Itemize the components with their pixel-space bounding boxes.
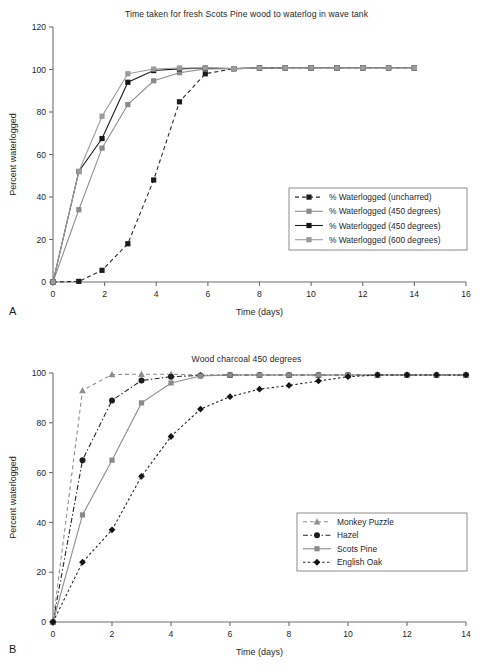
square-marker (257, 372, 262, 377)
y-tick-label: 0 (41, 277, 46, 287)
x-tick-label: 8 (257, 289, 262, 299)
square-marker (125, 71, 130, 76)
x-tick-label: 8 (287, 629, 292, 639)
y-axis-label: Percent waterlogged (8, 113, 18, 196)
x-tick-label: 12 (402, 629, 412, 639)
circle-marker (168, 374, 174, 380)
square-marker (109, 458, 114, 463)
x-axis-label: Time (days) (236, 647, 283, 657)
square-marker (203, 65, 208, 70)
y-tick-label: 100 (32, 65, 47, 75)
x-tick-label: 6 (228, 629, 233, 639)
legend-label-3: English Oak (337, 557, 383, 567)
square-marker (151, 66, 156, 71)
square-marker (386, 65, 391, 70)
square-marker (314, 546, 319, 551)
square-marker (227, 372, 232, 377)
x-tick-label: 0 (51, 629, 56, 639)
diamond-marker (197, 406, 204, 413)
square-marker (257, 65, 262, 70)
square-marker (286, 372, 291, 377)
square-marker (99, 268, 104, 273)
square-marker (334, 65, 339, 70)
circle-marker (109, 397, 115, 403)
square-marker (306, 209, 311, 214)
legend-label-0: % Waterlogged (uncharred) (329, 192, 432, 202)
series-line-3 (53, 375, 466, 622)
y-tick-label: 60 (36, 468, 46, 478)
y-tick-label: 120 (32, 22, 47, 32)
y-tick-label: 80 (36, 107, 46, 117)
square-marker (99, 136, 104, 141)
legend-label-1: Hazel (337, 530, 359, 540)
square-marker (316, 372, 321, 377)
square-marker (151, 78, 156, 83)
triangle-marker (79, 387, 86, 393)
series-line-1 (53, 375, 466, 622)
diamond-marker (79, 559, 86, 566)
x-tick-label: 14 (410, 289, 420, 299)
y-tick-label: 40 (36, 192, 46, 202)
y-tick-label: 60 (36, 150, 46, 160)
series-line-2 (53, 375, 466, 622)
circle-marker (314, 532, 320, 538)
x-tick-label: 6 (205, 289, 210, 299)
square-marker (283, 65, 288, 70)
x-tick-label: 10 (343, 629, 353, 639)
x-tick-label: 2 (110, 629, 115, 639)
square-marker (177, 65, 182, 70)
diamond-marker (286, 382, 293, 389)
y-axis-label: Percent waterlogged (8, 456, 18, 539)
y-tick-label: 40 (36, 518, 46, 528)
chart-a-plot: 0246810121416020406080100120Time (days)P… (0, 0, 493, 330)
square-marker (125, 80, 130, 85)
y-tick-label: 20 (36, 567, 46, 577)
square-marker (151, 177, 156, 182)
square-marker (139, 400, 144, 405)
square-marker (99, 114, 104, 119)
square-marker (125, 241, 130, 246)
legend-label-2: Scots Pine (337, 544, 377, 554)
diamond-marker (256, 386, 263, 393)
axis-lines (53, 373, 466, 622)
square-marker (168, 380, 173, 385)
legend-label-0: Monkey Puzzle (337, 517, 394, 527)
x-tick-label: 14 (461, 629, 471, 639)
square-marker (80, 512, 85, 517)
square-marker (203, 71, 208, 76)
y-tick-label: 0 (41, 617, 46, 627)
square-marker (360, 65, 365, 70)
y-tick-label: 100 (32, 368, 47, 378)
legend-label-2: % Waterlogged (450 degrees) (329, 221, 441, 231)
square-marker (198, 373, 203, 378)
square-marker (99, 146, 104, 151)
circle-marker (139, 377, 145, 383)
x-tick-label: 10 (306, 289, 316, 299)
y-tick-label: 20 (36, 235, 46, 245)
square-marker (76, 207, 81, 212)
square-marker (306, 237, 311, 242)
legend-label-3: % Waterlogged (600 degrees) (329, 235, 441, 245)
panel-b: Wood charcoal 450 degrees B 024681012140… (0, 330, 493, 671)
square-marker (76, 279, 81, 284)
x-tick-label: 16 (461, 289, 471, 299)
x-tick-label: 12 (358, 289, 368, 299)
x-tick-label: 2 (102, 289, 107, 299)
square-marker (231, 66, 236, 71)
square-marker (50, 279, 55, 284)
y-tick-label: 80 (36, 418, 46, 428)
x-tick-label: 4 (169, 629, 174, 639)
x-axis-label: Time (days) (236, 307, 283, 317)
panel-a: Time taken for fresh Scots Pine wood to … (0, 0, 493, 330)
square-marker (309, 65, 314, 70)
square-marker (125, 102, 130, 107)
legend-label-1: % Waterlogged (450 degrees) (329, 206, 441, 216)
square-marker (306, 223, 311, 228)
circle-marker (80, 457, 86, 463)
x-tick-label: 0 (51, 289, 56, 299)
x-tick-label: 4 (154, 289, 159, 299)
diamond-marker (227, 393, 234, 400)
square-marker (76, 169, 81, 174)
chart-b-plot: 02468101214020406080100Time (days)Percen… (0, 330, 493, 671)
square-marker (412, 65, 417, 70)
